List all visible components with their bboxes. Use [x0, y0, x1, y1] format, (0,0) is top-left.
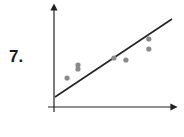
data-point	[146, 36, 151, 41]
data-points	[64, 36, 151, 80]
data-point	[75, 66, 80, 71]
data-point	[64, 75, 69, 80]
data-point	[146, 46, 151, 51]
data-point	[111, 55, 116, 60]
scatter-plot	[0, 0, 184, 137]
data-point	[123, 57, 128, 62]
